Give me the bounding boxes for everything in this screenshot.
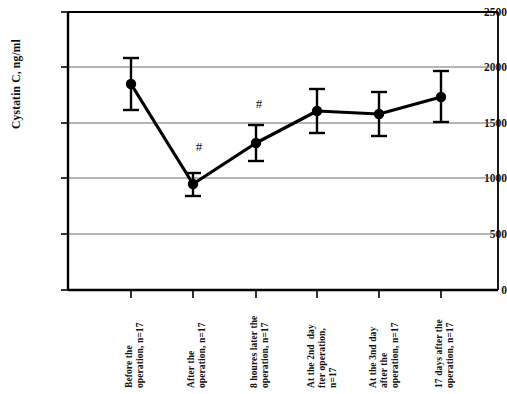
significance-marker-1: # (196, 139, 203, 155)
x-tick-label-after-operation: After the operation, n=17 (186, 302, 208, 388)
data-markers (126, 79, 446, 189)
significance-marker-2: # (256, 96, 263, 112)
x-tick-label-17-days: 17 days after the operation, n=17 (434, 302, 456, 388)
x-tick-label-before-operation: Before the operation, n=17 (124, 302, 146, 388)
data-point-4 (312, 106, 322, 116)
data-point-6 (436, 92, 446, 102)
data-point-3 (251, 138, 261, 148)
data-point-2 (188, 179, 198, 189)
chart-figure: Cystatin C, ng/ml 2500 2000 1500 1000 50… (0, 0, 507, 394)
data-point-1 (126, 79, 136, 89)
data-line-cystatin-c (131, 84, 441, 184)
gridlines (68, 67, 498, 234)
x-tick-label-2nd-day: At the 2nd day fter operation, n=17 (306, 302, 340, 388)
data-point-5 (374, 109, 384, 119)
plot-frame (68, 12, 498, 290)
x-tick-label-8-hours-later: 8 houres later the operation, n=17 (249, 302, 271, 388)
x-tick-label-3rd-day: At the 3nd day after the operation, n=17 (368, 302, 402, 388)
x-tick-marks (131, 290, 441, 298)
